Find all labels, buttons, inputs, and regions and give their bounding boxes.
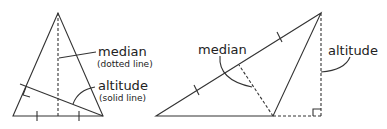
right-median-label: median bbox=[198, 42, 247, 57]
left-median-note: (dotted line) bbox=[97, 59, 153, 69]
left-altitude-note: (solid line) bbox=[99, 93, 146, 103]
right-median bbox=[239, 65, 273, 116]
left-altitude-label: altitude bbox=[98, 78, 148, 93]
right-angle-mark bbox=[313, 109, 321, 116]
right-angle-mark bbox=[23, 87, 30, 97]
left-median-label: median bbox=[98, 44, 147, 59]
right-altitude-label: altitude bbox=[328, 43, 378, 58]
right-triangle bbox=[156, 13, 321, 116]
left-figure bbox=[13, 13, 103, 121]
triangle-diagram: median (dotted line) altitude (solid lin… bbox=[0, 0, 387, 129]
altitude-pointer bbox=[321, 57, 350, 72]
right-figure bbox=[156, 13, 350, 116]
median-pointer bbox=[220, 56, 252, 87]
